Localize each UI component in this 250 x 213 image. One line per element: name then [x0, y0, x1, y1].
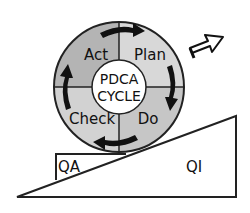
pdca-diagram: Act Plan Check Do PDCA CYCLE QA QI	[0, 0, 250, 213]
quadrant-do: Do	[138, 110, 159, 128]
upward-arrow-icon	[190, 35, 223, 58]
center-line2: CYCLE	[97, 88, 141, 104]
center-line1: PDCA	[100, 71, 139, 87]
quadrant-plan: Plan	[134, 46, 166, 64]
qi-label: QI	[186, 158, 202, 176]
pdca-wheel	[54, 22, 184, 152]
quadrant-act: Act	[84, 46, 108, 64]
quadrant-check: Check	[69, 110, 115, 128]
qa-label: QA	[58, 158, 81, 176]
